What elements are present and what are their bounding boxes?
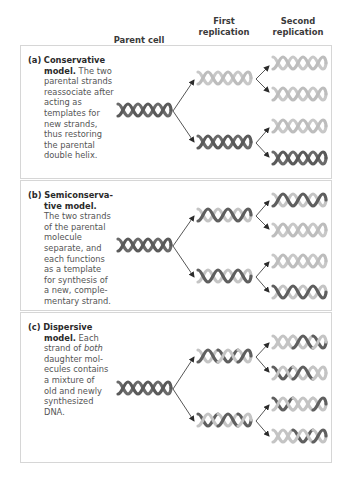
- panel-c-gen2-1-helix: [273, 336, 326, 348]
- panel-c-gen2-4-helix: [273, 430, 326, 442]
- panel-b-gen1-bottom-helix: [198, 270, 251, 282]
- panel-b-gen2-2-helix: [273, 224, 326, 236]
- panel-b-parent-helix: [118, 239, 171, 251]
- panel-c-gen1-bottom-helix: [198, 414, 251, 426]
- panel-b-gen2-4-helix: [273, 286, 326, 298]
- panel-c-gen2-3-helix: [273, 398, 326, 410]
- panel-a-gen1-top-helix: [198, 72, 251, 84]
- panel-c-gen1-top-helix: [198, 350, 251, 362]
- replication-diagram-art: [0, 0, 345, 482]
- panel-a-gen1-bottom-helix: [198, 136, 251, 148]
- panel-b-gen1-top-helix: [198, 209, 251, 221]
- panel-c-gen2-2-helix: [273, 367, 326, 379]
- panel-b-gen2-3-helix: [273, 255, 326, 267]
- panel-b-gen2-1-helix: [273, 194, 326, 206]
- panel-a-gen2-3-helix: [273, 120, 326, 132]
- panel-a-parent-helix: [118, 104, 171, 116]
- panel-a-gen2-2-helix: [273, 88, 326, 100]
- replication-arrows: [173, 66, 269, 436]
- panel-a-gen2-1-helix: [273, 57, 326, 69]
- panel-a-gen2-4-helix: [273, 152, 326, 164]
- panel-c-parent-helix: [118, 382, 171, 394]
